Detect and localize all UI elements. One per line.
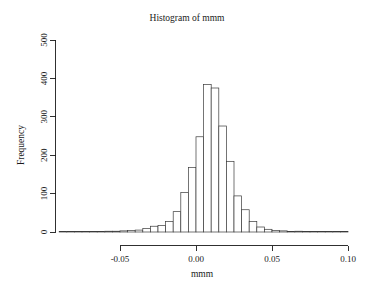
x-axis-label: mmm <box>191 269 214 279</box>
histogram-bar <box>90 231 98 232</box>
histogram-bar <box>340 231 348 232</box>
y-axis-tick-label: 500 <box>39 33 49 47</box>
y-axis-label: Frequency <box>16 125 26 165</box>
histogram-bar <box>257 227 265 232</box>
histogram-bar <box>128 230 136 232</box>
histogram-bar <box>82 231 90 232</box>
histogram-bar <box>318 231 326 232</box>
histogram-bar <box>173 212 181 232</box>
histogram-bar <box>211 88 219 232</box>
histogram-chart: Histogram of mmm 0100200300400500 -0.050… <box>0 0 371 288</box>
histogram-bar <box>302 231 310 232</box>
histogram-bar <box>112 231 120 232</box>
histogram-bar <box>150 226 158 232</box>
y-axis-tick-label: 300 <box>39 110 49 124</box>
x-axis-tick-label: 0.05 <box>264 254 280 264</box>
x-axis-tick-label: 0.00 <box>188 254 204 264</box>
y-axis-tick-label: 0 <box>39 229 49 234</box>
histogram-bar <box>204 85 212 232</box>
histogram-bar <box>97 231 105 232</box>
histogram-bar <box>325 231 333 232</box>
histogram-bar <box>67 231 75 232</box>
x-axis-tick-label: -0.05 <box>111 254 130 264</box>
histogram-bar <box>226 161 234 232</box>
histogram-bar <box>310 231 318 232</box>
histogram-bar <box>166 222 174 232</box>
histogram-bar <box>242 210 250 232</box>
histogram-bar <box>295 231 303 232</box>
y-axis-tick-label: 400 <box>39 71 49 85</box>
histogram-plot-root: Histogram of mmm 0100200300400500 -0.050… <box>0 0 371 288</box>
histogram-bar <box>234 196 242 232</box>
y-axis-tick-label: 200 <box>39 148 49 162</box>
histogram-bar <box>105 231 113 232</box>
histogram-bar <box>333 231 341 232</box>
histogram-bar <box>188 167 196 232</box>
histogram-bar <box>135 230 143 232</box>
y-axis-tick-label: 100 <box>39 186 49 200</box>
chart-title: Histogram of mmm <box>150 13 226 23</box>
histogram-bar <box>264 229 272 232</box>
histogram-bar <box>59 231 67 232</box>
histogram-bar <box>120 231 128 232</box>
histogram-bar <box>74 231 82 232</box>
histogram-bar <box>287 231 295 232</box>
histogram-bar <box>143 229 151 232</box>
histogram-bar <box>196 137 204 232</box>
histogram-bar <box>280 231 288 232</box>
histogram-bar <box>272 230 280 232</box>
x-axis-tick-label: 0.10 <box>340 254 356 264</box>
histogram-bar <box>249 222 257 232</box>
histogram-bar <box>181 192 189 232</box>
histogram-bar <box>158 225 166 232</box>
histogram-bar <box>219 126 227 232</box>
